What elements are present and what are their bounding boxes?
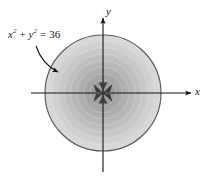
x-axis-label: x <box>195 85 200 97</box>
y-axis-label: y <box>106 5 111 17</box>
equation-plus: + <box>17 28 29 40</box>
circle-region-figure: x2 + y2 = 36 x y <box>0 0 212 178</box>
equation-equals: = <box>37 28 49 40</box>
equation-value: 36 <box>49 28 60 40</box>
equation-label: x2 + y2 = 36 <box>8 28 60 40</box>
figure-canvas <box>0 0 212 178</box>
